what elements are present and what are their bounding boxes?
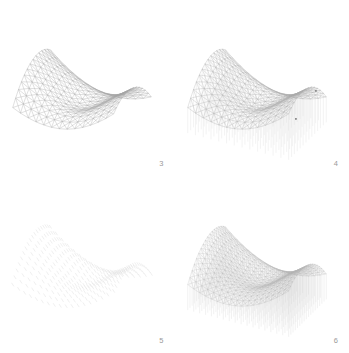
panel-number-label: 6 (334, 337, 338, 345)
panel-number-label: 5 (159, 337, 163, 345)
surface-plot-4 (175, 0, 349, 177)
panel-3: 3 (0, 0, 175, 177)
panel-5: 5 (0, 177, 175, 353)
panel-4: 4 (175, 0, 349, 177)
panel-6: 6 (175, 177, 349, 353)
panel-number-label: 4 (334, 160, 338, 168)
surface-plot-3 (0, 0, 175, 177)
surface-plot-5 (0, 177, 175, 353)
surface-plot-6 (175, 177, 349, 353)
plot-geometry (12, 224, 152, 307)
figure-panel-grid: 3 4 5 6 (0, 0, 349, 353)
panel-number-label: 3 (159, 160, 163, 168)
plot-geometry (187, 226, 326, 337)
plot-geometry (187, 49, 326, 160)
plot-geometry (13, 49, 152, 129)
